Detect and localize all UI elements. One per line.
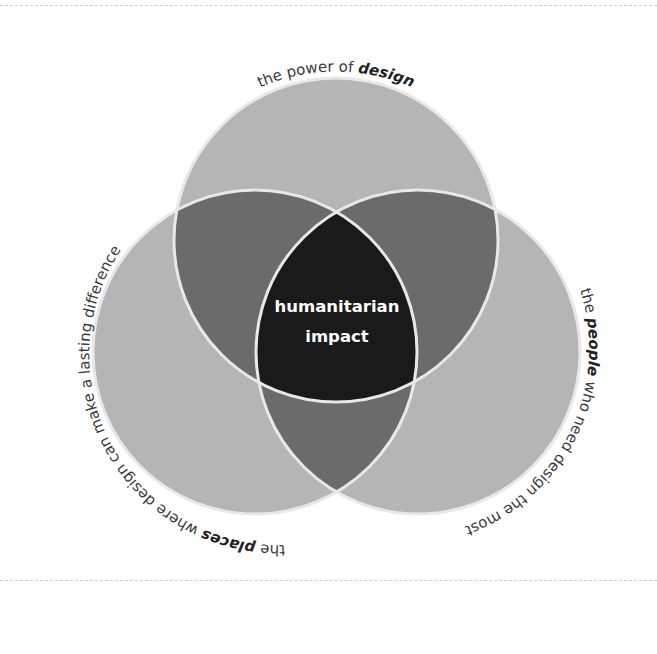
center-label-line1: humanitarian <box>275 297 400 316</box>
center-label-line2: impact <box>305 327 369 346</box>
venn-diagram: humanitarian impact the power of design … <box>0 0 657 654</box>
